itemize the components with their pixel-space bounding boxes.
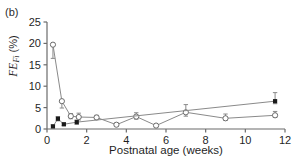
x-tick-label: 8	[203, 134, 209, 146]
data-point-filled-square	[51, 124, 55, 128]
data-point-filled-square	[75, 120, 79, 124]
series-line	[53, 45, 275, 126]
data-point-open-circle	[134, 114, 139, 119]
x-tick-label: 10	[239, 134, 251, 146]
data-point-filled-square	[56, 117, 60, 121]
data-point-open-circle	[153, 123, 158, 128]
plot-area: 0510152025024681012	[0, 0, 295, 165]
data-point-open-circle	[94, 115, 99, 120]
y-tick-label: 20	[29, 37, 41, 49]
y-tick-label: 10	[29, 80, 41, 92]
y-tick-label: 5	[35, 102, 41, 114]
y-tick-label: 15	[29, 59, 41, 71]
data-point-filled-square	[62, 122, 66, 126]
data-point-open-circle	[114, 122, 119, 127]
data-point-open-circle	[68, 114, 73, 119]
data-point-open-circle	[76, 114, 81, 119]
x-tick-label: 12	[279, 134, 291, 146]
data-point-open-circle	[50, 42, 55, 47]
y-tick-label: 25	[29, 16, 41, 28]
series-filled-square-series	[51, 93, 278, 129]
series-line	[53, 101, 275, 126]
x-tick-label: 2	[84, 134, 90, 146]
x-tick-label: 0	[44, 134, 50, 146]
data-point-open-circle	[223, 116, 228, 121]
data-point-open-circle	[59, 99, 64, 104]
figure-panel-b: (b) FEFi (%) Postnatal age (weeks) 05101…	[0, 0, 295, 165]
x-tick-label: 4	[123, 134, 129, 146]
data-point-filled-square	[273, 99, 277, 103]
series-open-circle-series	[50, 42, 277, 128]
y-tick-label: 0	[35, 123, 41, 135]
x-tick-label: 6	[163, 134, 169, 146]
data-point-open-circle	[272, 113, 277, 118]
